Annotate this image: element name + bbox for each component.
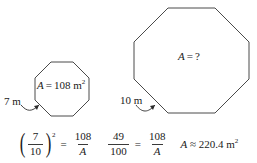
small-octagon-area-label: A=108 m2 (37, 80, 85, 91)
large-octagon-side-label: 10 m (120, 95, 142, 106)
large-octagon-area-label: A=? (178, 51, 200, 62)
open-paren: ( (20, 130, 26, 156)
step2-relation: = (130, 138, 146, 150)
large-area-equals: = (185, 50, 195, 62)
result-unit-exponent: 2 (235, 137, 239, 145)
small-area-equals: = (44, 79, 54, 91)
step2-ratio-fraction: 49 100 (107, 131, 130, 157)
result-variable: A (180, 138, 187, 150)
large-area-variable: A (178, 50, 185, 62)
similar-octagons-figure: A=108 m2 A=? 7 m 10 m ( 7 10 ) 2 = 108 A (0, 0, 257, 163)
step1-area-numerator: 108 (73, 131, 94, 144)
step2-ratio-numerator: 49 (111, 131, 126, 144)
small-area-unit-exponent: 2 (82, 78, 86, 86)
small-area-value: 108 m (54, 79, 82, 91)
small-area-variable: A (37, 79, 44, 91)
small-octagon-side-label: 7 m (4, 96, 21, 107)
step2-area-numerator: 108 (147, 131, 168, 144)
close-paren: ) (46, 130, 52, 156)
step2-area-denominator: A (152, 144, 163, 158)
equation-step-1: ( 7 10 ) 2 = 108 A (18, 131, 94, 157)
large-area-value: ? (195, 50, 200, 62)
step1-area-denominator: A (78, 144, 89, 158)
ratio-denominator: 10 (28, 144, 43, 158)
small-side-arrowhead (34, 105, 39, 110)
step1-relation: = (56, 138, 72, 150)
step2-area-fraction: 108 A (146, 131, 169, 157)
paren-fraction-group: ( 7 10 ) 2 (18, 131, 56, 157)
equation-row: ( 7 10 ) 2 = 108 A 49 100 = 10 (0, 125, 257, 163)
result-approx-symbol: ≈ (190, 138, 196, 150)
ratio-fraction: 7 10 (27, 131, 44, 157)
equation-step-2: 49 100 = 108 A (107, 131, 168, 157)
equation-result: A ≈ 220.4 m2 (180, 138, 238, 150)
result-value: 220.4 m (199, 138, 235, 150)
step2-ratio-denominator: 100 (108, 144, 129, 158)
step1-area-fraction: 108 A (72, 131, 95, 157)
ratio-numerator: 7 (31, 131, 41, 144)
